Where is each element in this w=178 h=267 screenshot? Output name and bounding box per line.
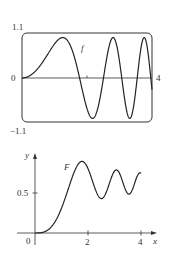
chart-f-y-top-label: 1.1 — [12, 22, 23, 32]
chart-F-curve — [35, 161, 141, 233]
fresnel-charts: 1.1 −1.1 0 4 f 0 2 4 0.5 x y F — [0, 0, 178, 267]
chart-F-y-arrow-icon — [33, 153, 37, 159]
chart-f-x-left-label: 0 — [11, 73, 16, 83]
chart-f-y-bottom-label: −1.1 — [10, 126, 26, 136]
chart-F-x-tick-2-label: 2 — [85, 237, 90, 247]
chart-f-series-label: f — [81, 43, 85, 53]
chart-F-x-tick-4-label: 4 — [138, 237, 143, 247]
chart-f: 1.1 −1.1 0 4 f — [10, 22, 161, 136]
chart-F-origin-label: 0 — [26, 236, 31, 246]
chart-F-x-axis-label: x — [152, 236, 157, 246]
chart-F: 0 2 4 0.5 x y F — [17, 150, 157, 247]
chart-F-series-label: F — [63, 162, 70, 172]
chart-F-x-arrow-icon — [151, 231, 157, 235]
chart-F-y-tick-05-label: 0.5 — [17, 188, 29, 198]
chart-f-x-right-label: 4 — [156, 73, 161, 83]
chart-F-y-axis-label: y — [24, 150, 29, 160]
